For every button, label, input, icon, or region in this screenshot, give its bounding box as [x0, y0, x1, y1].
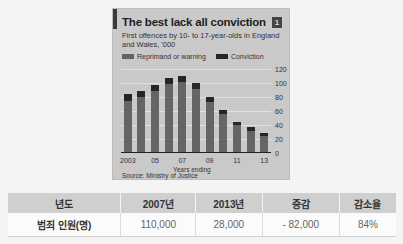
x-tick-label: 07 — [178, 157, 186, 164]
chart-subtitle: First offences by 10- to 17-year-olds in… — [122, 31, 282, 49]
y-tick-label: 60 — [275, 108, 283, 115]
bar-2012 — [247, 127, 255, 153]
chart-title: The best lack all conviction — [122, 16, 266, 28]
bar-2009 — [206, 97, 214, 153]
legend-item-conviction: Conviction — [216, 53, 264, 60]
bar-segment-reprimand — [219, 114, 227, 153]
bar-segment-reprimand — [192, 89, 200, 153]
legend-label-reprimand: Reprimand or warning — [137, 53, 206, 60]
bar-2004 — [137, 91, 145, 153]
header-year: 년도 — [8, 193, 121, 213]
bar-segment-reprimand — [151, 91, 159, 153]
cell-decrease-rate: 84% — [339, 213, 396, 236]
bar-2007 — [178, 76, 186, 153]
bar-2006 — [165, 78, 173, 153]
table-row: 범죄 인원(명) 110,000 28,000 - 82,000 84% — [8, 213, 396, 236]
y-tick-label: 0 — [275, 150, 279, 157]
legend-label-conviction: Conviction — [231, 53, 264, 60]
chart-panel: The best lack all conviction 1 First off… — [112, 8, 290, 180]
summary-table: 년도 2007년 2013년 증감 감소율 범죄 인원(명) 110,000 2… — [8, 193, 396, 237]
bar-segment-reprimand — [178, 82, 186, 153]
bar-segment-reprimand — [165, 84, 173, 153]
accent-bar — [113, 9, 117, 29]
x-tick-label: 09 — [206, 157, 214, 164]
x-tick-label: 13 — [260, 157, 268, 164]
chart-source: Source: Ministry of Justice — [122, 172, 198, 179]
x-tick-label: 05 — [151, 157, 159, 164]
bar-segment-reprimand — [206, 102, 214, 153]
cell-2013: 28,000 — [196, 213, 262, 236]
bar-2011 — [233, 122, 241, 154]
bar-segment-reprimand — [247, 131, 255, 153]
gridline — [121, 69, 271, 70]
bar-2008 — [192, 83, 200, 153]
header-2007: 2007년 — [121, 193, 196, 213]
chart-legend: Reprimand or warning Conviction — [122, 53, 264, 60]
bar-2013 — [260, 133, 268, 153]
y-tick-label: 100 — [275, 80, 287, 87]
bar-segment-reprimand — [260, 136, 268, 153]
header-2013: 2013년 — [196, 193, 262, 213]
y-tick-label: 120 — [275, 66, 287, 73]
cell-change: - 82,000 — [262, 213, 339, 236]
table-header-row: 년도 2007년 2013년 증감 감소율 — [8, 193, 396, 213]
row-label: 범죄 인원(명) — [8, 213, 121, 236]
legend-swatch-conviction — [216, 54, 228, 59]
legend-swatch-reprimand — [122, 54, 134, 59]
cell-2007: 110,000 — [121, 213, 196, 236]
x-tick-label: 11 — [233, 157, 240, 164]
y-tick-label: 40 — [275, 122, 283, 129]
bar-segment-reprimand — [124, 101, 132, 154]
header-decrease-rate: 감소율 — [339, 193, 396, 213]
bar-2005 — [151, 85, 159, 153]
chart-number-badge: 1 — [272, 17, 282, 28]
y-tick-label: 20 — [275, 136, 283, 143]
bar-2010 — [219, 110, 227, 153]
y-tick-label: 80 — [275, 94, 283, 101]
bar-2003 — [124, 94, 132, 153]
bar-segment-reprimand — [137, 97, 145, 153]
plot-area: 020406080100120 — [121, 69, 271, 153]
legend-item-reprimand: Reprimand or warning — [122, 53, 206, 60]
header-change: 증감 — [262, 193, 339, 213]
x-axis-baseline — [121, 152, 271, 153]
x-tick-label: 2003 — [120, 157, 136, 164]
bar-segment-reprimand — [233, 125, 241, 153]
